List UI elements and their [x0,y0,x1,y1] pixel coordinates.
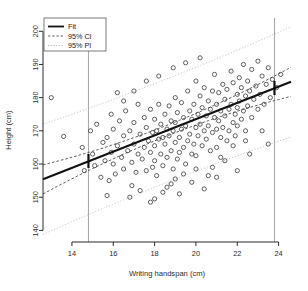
y-tick-label: 160 [31,158,40,170]
scatter-plot-svg: 140150160170180190200 141618202224 Heigh… [0,0,308,291]
x-tick-label: 14 [68,249,76,258]
x-tick-label: 18 [150,249,158,258]
legend-label-1[interactable]: 95% CI [68,32,92,41]
y-tick-label: 200 [31,25,40,37]
x-tick-label: 16 [109,249,117,258]
y-axis-title: Height (cm) [4,110,13,150]
chart-root: 140150160170180190200 141618202224 Heigh… [0,0,308,291]
x-tick-label: 22 [233,249,241,258]
y-tick-label: 170 [31,125,40,137]
legend-label-0[interactable]: Fit [68,22,76,31]
y-tick-label: 150 [31,191,40,203]
y-tick-label: 190 [31,58,40,70]
x-axis-title: Writing handspan (cm) [129,269,206,278]
legend[interactable]: Fit95% CI95% PI [44,18,106,51]
y-tick-label: 140 [31,224,40,236]
x-tick-label: 24 [274,249,282,258]
legend-label-2[interactable]: 95% PI [68,41,91,50]
x-tick-label: 20 [192,249,200,258]
y-tick-label: 180 [31,91,40,103]
